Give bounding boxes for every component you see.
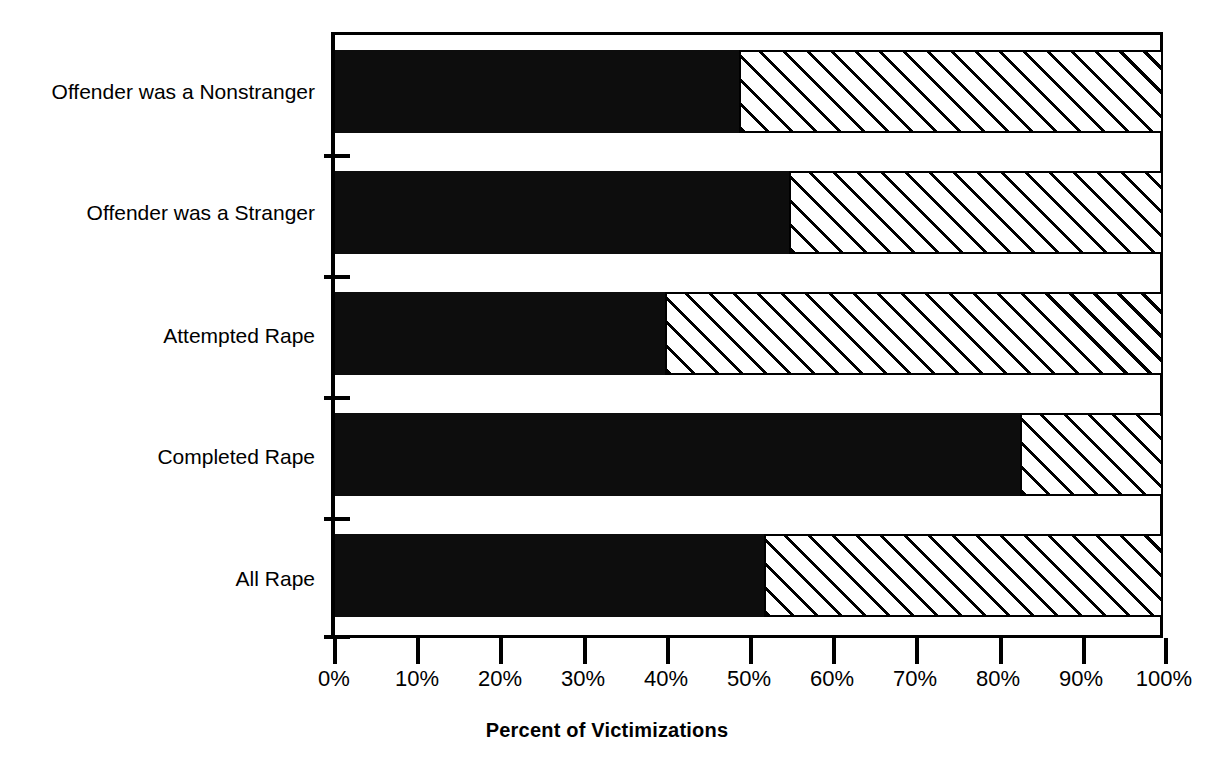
bar-row-attempted-rape: [335, 292, 1160, 375]
x-axis-tick-10: [416, 638, 420, 664]
bar-segment-reported-nonstranger: [335, 50, 739, 133]
y-axis-tick-2: [324, 275, 350, 279]
category-label-attempted-rape: Attempted Rape: [163, 325, 315, 346]
chart-page: Offender was a Nonstranger Offender was …: [0, 0, 1214, 775]
x-axis-tick-30: [583, 638, 587, 664]
bar-row-stranger: [335, 171, 1160, 254]
category-label-nonstranger: Offender was a Nonstranger: [52, 81, 315, 102]
category-label-completed-rape: Completed Rape: [157, 446, 315, 467]
x-axis-label-20: 20%: [478, 666, 522, 692]
bar-row-completed-rape: [335, 413, 1160, 496]
x-axis-title: Percent of Victimizations: [0, 719, 1214, 742]
x-axis-label-100: 100%: [1136, 666, 1192, 692]
y-axis-tick-3: [324, 396, 350, 400]
x-axis-label-10: 10%: [395, 666, 439, 692]
bar-segment-reported-attempted: [335, 292, 665, 375]
bar-segment-reported-stranger: [335, 171, 789, 254]
x-axis-label-90: 90%: [1059, 666, 1103, 692]
x-axis-tick-20: [499, 638, 503, 664]
x-axis-label-50: 50%: [727, 666, 771, 692]
x-axis-tick-90: [1082, 638, 1086, 664]
category-label-stranger: Offender was a Stranger: [87, 202, 315, 223]
bar-segment-notreported-completed: [1020, 413, 1163, 496]
bar-segment-notreported-nonstranger: [739, 50, 1163, 133]
x-axis-tick-40: [666, 638, 670, 664]
bar-segment-reported-all-rape: [335, 534, 764, 617]
x-axis-tick-60: [832, 638, 836, 664]
y-axis-tick-4: [324, 517, 350, 521]
bar-segment-notreported-all-rape: [764, 534, 1163, 617]
x-axis-label-40: 40%: [644, 666, 688, 692]
bar-row-all-rape: [335, 534, 1160, 617]
x-axis-label-30: 30%: [561, 666, 605, 692]
x-axis-tick-80: [999, 638, 1003, 664]
bar-row-nonstranger: [335, 50, 1160, 133]
x-axis-tick-70: [915, 638, 919, 664]
bar-segment-reported-completed: [335, 413, 1020, 496]
bar-segment-notreported-attempted: [665, 292, 1163, 375]
x-axis-tick-100: [1164, 638, 1168, 664]
y-axis-tick-5: [324, 635, 350, 639]
y-axis-tick-1: [324, 154, 350, 158]
category-label-all-rape: All Rape: [236, 568, 315, 589]
x-axis-label-60: 60%: [810, 666, 854, 692]
x-axis-label-80: 80%: [976, 666, 1020, 692]
x-axis-label-0: 0%: [318, 666, 350, 692]
plot-area: [331, 32, 1163, 638]
x-axis-label-70: 70%: [893, 666, 937, 692]
x-axis-tick-0: [333, 638, 337, 664]
bar-segment-notreported-stranger: [789, 171, 1163, 254]
x-axis-tick-50: [749, 638, 753, 664]
